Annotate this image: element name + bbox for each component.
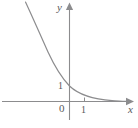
x-axis-label: x [128,104,133,115]
y-axis-label: y [57,2,62,13]
origin-label: 0 [59,103,65,113]
y-axis-arrow-icon [66,3,73,11]
plot-canvas [0,0,138,128]
x-axis-tick-label-one: 1 [81,105,86,115]
graph-figure: y x 0 1 1 [0,0,138,128]
y-axis-tick-label-one: 1 [58,81,63,91]
exponential-decay-curve [26,2,128,101]
